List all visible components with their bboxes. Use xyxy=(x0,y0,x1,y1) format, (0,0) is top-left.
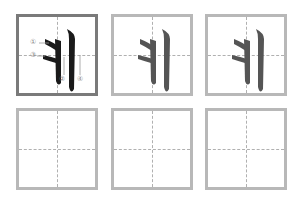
practice-cell-trace xyxy=(111,14,193,96)
horizontal-guide xyxy=(114,149,190,150)
character-glyph-icon xyxy=(114,17,190,93)
horizontal-guide xyxy=(208,149,284,150)
stroke-label-1: ① xyxy=(30,38,36,46)
stroke-label-2: ② xyxy=(59,75,65,83)
practice-cell-blank[interactable] xyxy=(16,108,98,190)
practice-cell-blank[interactable] xyxy=(111,108,193,190)
character-glyph-icon xyxy=(208,17,284,93)
stroke-label-3: ③ xyxy=(30,51,36,59)
practice-cell-blank[interactable] xyxy=(205,108,287,190)
practice-cell-stroke-order: ① ② ③ ④ xyxy=(16,14,98,96)
practice-cell-trace xyxy=(205,14,287,96)
horizontal-guide xyxy=(19,149,95,150)
stroke-label-4: ④ xyxy=(77,75,83,83)
